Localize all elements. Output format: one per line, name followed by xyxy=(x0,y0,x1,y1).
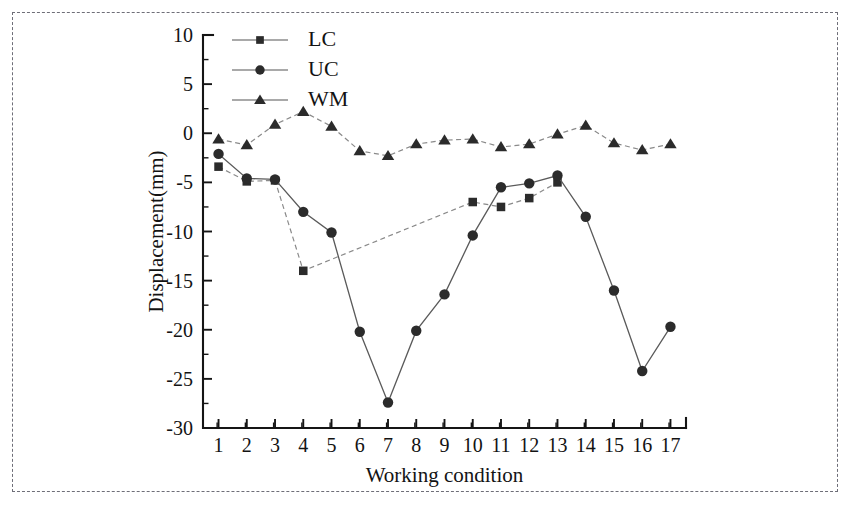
series-wm xyxy=(212,106,676,160)
y-tick-label: -15 xyxy=(166,270,193,292)
y-tick-label: 0 xyxy=(183,122,193,144)
x-tick-label: 1 xyxy=(214,434,224,456)
axis-lines xyxy=(203,35,686,428)
y-tick-label: -5 xyxy=(176,171,193,193)
x-tick-label: 14 xyxy=(576,434,596,456)
data-point-marker xyxy=(270,174,280,184)
data-point-marker xyxy=(468,230,478,240)
series-line-uc xyxy=(219,154,671,403)
data-point-marker xyxy=(325,120,337,130)
data-point-marker xyxy=(523,138,535,148)
figure-container: LCUCWM 1050-5-10-15-20-25-30123456789101… xyxy=(0,0,852,506)
x-tick-label: 8 xyxy=(411,434,421,456)
legend-item-lc: LC xyxy=(232,26,336,51)
y-tick-label: -25 xyxy=(166,368,193,390)
legend-item-wm: WM xyxy=(232,86,348,111)
data-point-marker xyxy=(525,194,534,203)
x-tick-label: 4 xyxy=(298,434,308,456)
data-point-marker xyxy=(256,36,264,44)
data-point-marker xyxy=(212,133,224,143)
series-line-wm xyxy=(219,112,671,156)
series-line-lc xyxy=(219,167,558,271)
y-axis-title: Displacement(mm) xyxy=(144,150,168,312)
data-point-marker xyxy=(255,65,264,74)
data-point-marker xyxy=(241,139,253,149)
data-point-marker xyxy=(664,138,676,148)
axes-layer xyxy=(203,35,686,428)
data-point-marker xyxy=(468,198,477,207)
data-point-marker xyxy=(326,227,336,237)
displacement-line-chart: LCUCWM 1050-5-10-15-20-25-30123456789101… xyxy=(0,0,852,506)
data-point-marker xyxy=(496,182,506,192)
x-axis-title: Working condition xyxy=(366,463,524,487)
data-point-marker xyxy=(637,366,647,376)
data-point-marker xyxy=(242,173,252,183)
data-point-marker xyxy=(608,137,620,147)
series-layer xyxy=(212,106,676,408)
data-point-marker xyxy=(497,203,506,212)
data-point-marker xyxy=(665,322,675,332)
x-tick-label: 17 xyxy=(660,434,680,456)
x-tick-label: 3 xyxy=(270,434,280,456)
data-point-marker xyxy=(254,94,266,104)
legend-label: WM xyxy=(308,86,348,111)
x-tick-label: 12 xyxy=(519,434,539,456)
data-point-marker xyxy=(552,170,562,180)
data-point-marker xyxy=(438,134,450,144)
data-point-marker xyxy=(383,397,393,407)
legend-item-uc: UC xyxy=(232,56,339,81)
x-tick-label: 5 xyxy=(327,434,337,456)
x-tick-label: 6 xyxy=(355,434,365,456)
legend-label: UC xyxy=(308,56,339,81)
legend-layer: LCUCWM xyxy=(232,26,348,111)
y-tick-label: 10 xyxy=(173,24,193,46)
x-tick-label: 15 xyxy=(604,434,624,456)
legend-label: LC xyxy=(308,26,336,51)
data-point-marker xyxy=(581,212,591,222)
x-tick-label: 11 xyxy=(491,434,510,456)
data-point-marker xyxy=(439,289,449,299)
data-point-marker xyxy=(298,207,308,217)
series-uc xyxy=(213,149,675,408)
y-tick-label: -30 xyxy=(166,417,193,439)
data-point-marker xyxy=(609,285,619,295)
data-point-marker xyxy=(410,138,422,148)
x-tick-label: 2 xyxy=(242,434,252,456)
data-point-marker xyxy=(213,149,223,159)
data-point-marker xyxy=(551,128,563,138)
data-point-marker xyxy=(579,119,591,129)
x-tick-label: 13 xyxy=(547,434,567,456)
data-point-marker xyxy=(355,327,365,337)
data-point-marker xyxy=(524,178,534,188)
x-tick-label: 10 xyxy=(463,434,483,456)
data-point-marker xyxy=(269,118,281,128)
data-point-marker xyxy=(214,162,223,171)
x-tick-label: 7 xyxy=(383,434,393,456)
x-tick-label: 9 xyxy=(440,434,450,456)
data-point-marker xyxy=(467,133,479,143)
y-tick-label: -20 xyxy=(166,319,193,341)
x-tick-label: 16 xyxy=(632,434,652,456)
data-point-marker xyxy=(495,141,507,151)
y-tick-label: -10 xyxy=(166,221,193,243)
data-point-marker xyxy=(411,326,421,336)
y-tick-label: 5 xyxy=(183,73,193,95)
data-point-marker xyxy=(299,267,308,276)
